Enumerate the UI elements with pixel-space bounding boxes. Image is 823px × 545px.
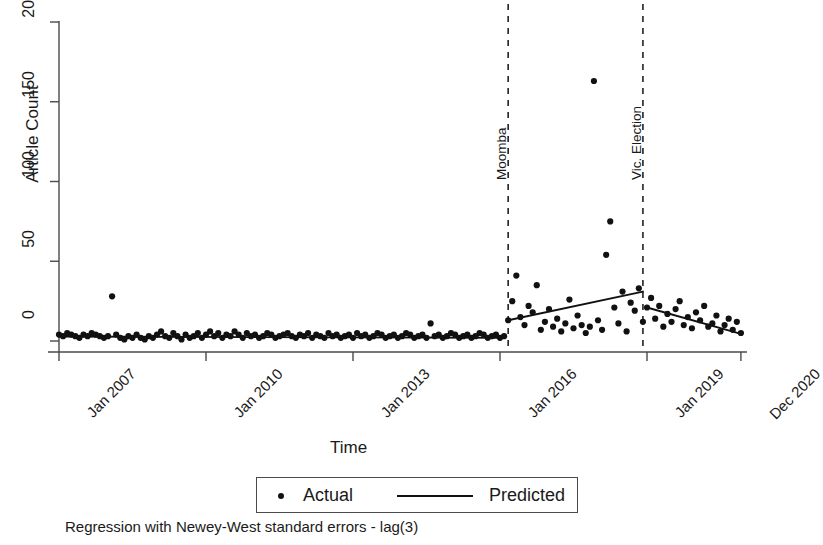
actual-scatter-points xyxy=(56,78,744,343)
legend-actual-label: Actual xyxy=(303,485,353,506)
legend-predicted-label: Predicted xyxy=(489,485,565,506)
legend-predicted-marker-icon xyxy=(397,495,473,497)
legend-actual-marker-icon xyxy=(278,493,284,499)
figure-caption: Regression with Newey-West standard erro… xyxy=(65,518,418,535)
chart-legend: Actual Predicted xyxy=(256,477,578,513)
